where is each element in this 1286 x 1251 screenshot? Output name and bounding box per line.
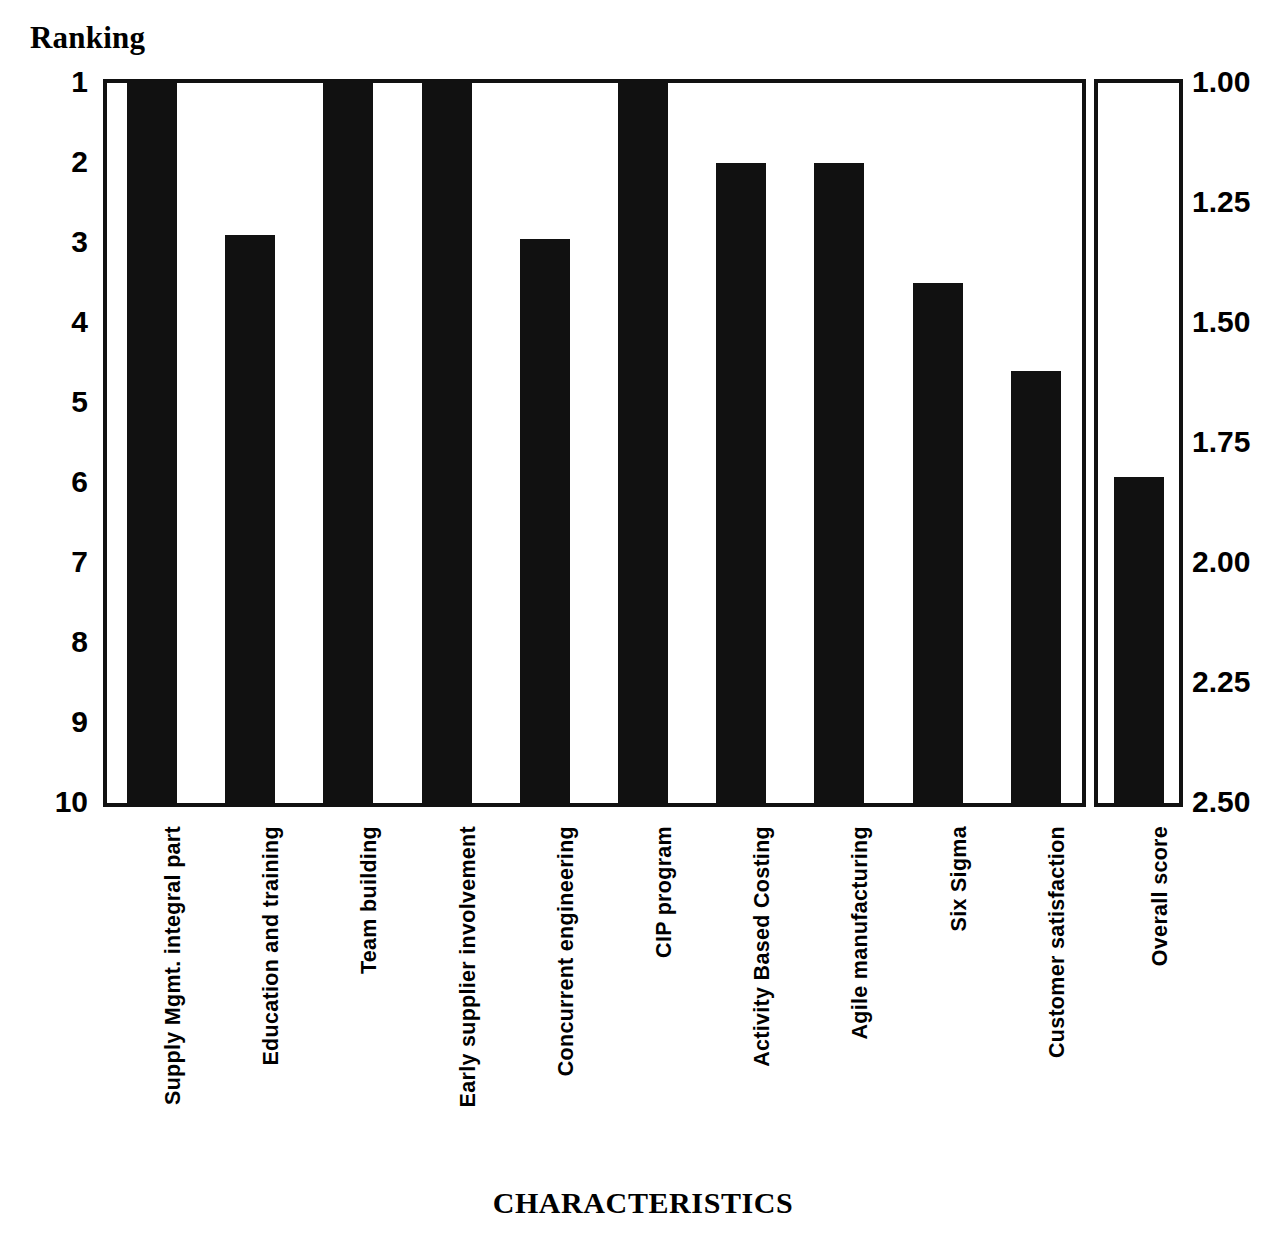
bar-2: [323, 83, 373, 803]
overall-score-plot-frame: [1094, 79, 1183, 807]
y-axis-left-tick-4: 4: [22, 307, 88, 337]
x-axis-label-6: Activity Based Costing: [752, 826, 774, 1156]
y-axis-left-tick-6: 6: [22, 467, 88, 497]
x-axis-title: CHARACTERISTICS: [0, 1188, 1286, 1218]
bar-overall-score: [1114, 477, 1164, 803]
x-axis-label-1: Education and training: [261, 826, 283, 1156]
y-axis-left-tick-10: 10: [22, 787, 88, 817]
bar-3: [422, 83, 472, 803]
overall-score-plot-area: [1098, 83, 1179, 803]
bar-5: [618, 83, 668, 803]
main-plot-frame: [103, 79, 1086, 807]
y-axis-left-tick-8: 8: [22, 627, 88, 657]
x-axis-label-0: Supply Mgmt. integral part: [163, 826, 185, 1156]
y-axis-left-tick-9: 9: [22, 707, 88, 737]
x-axis-label-8: Six Sigma: [949, 826, 971, 1156]
x-axis-label-5: CIP program: [654, 826, 676, 1156]
y-axis-right-tick-1-50: 1.50: [1192, 307, 1250, 337]
bar-0: [127, 83, 177, 803]
bar-7: [814, 163, 864, 803]
y-axis-right-tick-1-00: 1.00: [1192, 67, 1250, 97]
bar-4: [520, 239, 570, 803]
x-axis-label-4: Concurrent engineering: [556, 826, 578, 1156]
bar-6: [716, 163, 766, 803]
y-axis-left-tick-5: 5: [22, 387, 88, 417]
y-axis-right-tick-2-25: 2.25: [1192, 667, 1250, 697]
x-axis-label-overall-score: Overall score: [1150, 826, 1172, 1156]
y-axis-left-tick-3: 3: [22, 227, 88, 257]
y-axis-left-tick-1: 1: [22, 67, 88, 97]
x-axis-label-3: Early supplier involvement: [458, 826, 480, 1156]
y-axis-left-tick-7: 7: [22, 547, 88, 577]
y-axis-title-ranking: Ranking: [30, 22, 145, 53]
bar-1: [225, 235, 275, 803]
main-plot-area: [107, 83, 1082, 803]
y-axis-right-tick-2-00: 2.00: [1192, 547, 1250, 577]
x-axis-label-9: Customer satisfaction: [1047, 826, 1069, 1156]
bar-9: [1011, 371, 1061, 803]
bar-8: [913, 283, 963, 803]
y-axis-right-tick-2-50: 2.50: [1192, 787, 1250, 817]
y-axis-right-tick-1-75: 1.75: [1192, 427, 1250, 457]
x-axis-label-7: Agile manufacturing: [850, 826, 872, 1156]
y-axis-right-tick-1-25: 1.25: [1192, 187, 1250, 217]
y-axis-left-tick-2: 2: [22, 147, 88, 177]
x-axis-label-2: Team building: [359, 826, 381, 1156]
